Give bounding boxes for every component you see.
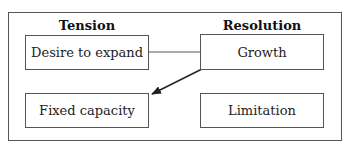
- node-fixed-capacity: Fixed capacity: [25, 93, 149, 128]
- node-label: Limitation: [228, 103, 296, 118]
- node-growth: Growth: [200, 34, 324, 70]
- node-label: Fixed capacity: [39, 103, 135, 118]
- edge-growth-fixed-arrow: [152, 69, 202, 94]
- node-desire-to-expand: Desire to expand: [25, 35, 149, 70]
- node-label: Growth: [237, 45, 286, 60]
- node-limitation: Limitation: [200, 93, 324, 128]
- node-label: Desire to expand: [31, 45, 143, 60]
